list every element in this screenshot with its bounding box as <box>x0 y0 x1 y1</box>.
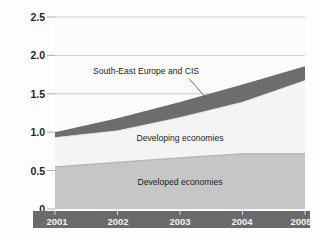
xtick-label-2001: 2001 <box>46 216 68 227</box>
stacked-area-chart: 2.5 2.0 1.5 1.0 0.5 0 South-East Europe … <box>0 0 318 238</box>
ytick-label-2-0: 2.0 <box>30 49 45 61</box>
annotation-see-cis: South-East Europe and CIS <box>93 66 199 76</box>
xtick-label-2003: 2003 <box>169 216 190 227</box>
ytick-label-2-5: 2.5 <box>30 11 45 23</box>
annotation-developed: Developed economies <box>137 177 222 187</box>
ytick-label-0-5: 0.5 <box>30 165 45 177</box>
ytick-label-1-5: 1.5 <box>30 88 45 100</box>
x-axis-band: 2001 2002 2003 2004 2005 <box>33 211 312 228</box>
chart-canvas: 2.5 2.0 1.5 1.0 0.5 0 South-East Europe … <box>0 0 318 238</box>
xtick-label-2002: 2002 <box>107 216 128 227</box>
ytick-label-1-0: 1.0 <box>30 126 45 138</box>
xtick-label-2005: 2005 <box>290 216 312 227</box>
xtick-label-2004: 2004 <box>231 216 253 227</box>
annotation-developing: Developing economies <box>137 133 224 143</box>
